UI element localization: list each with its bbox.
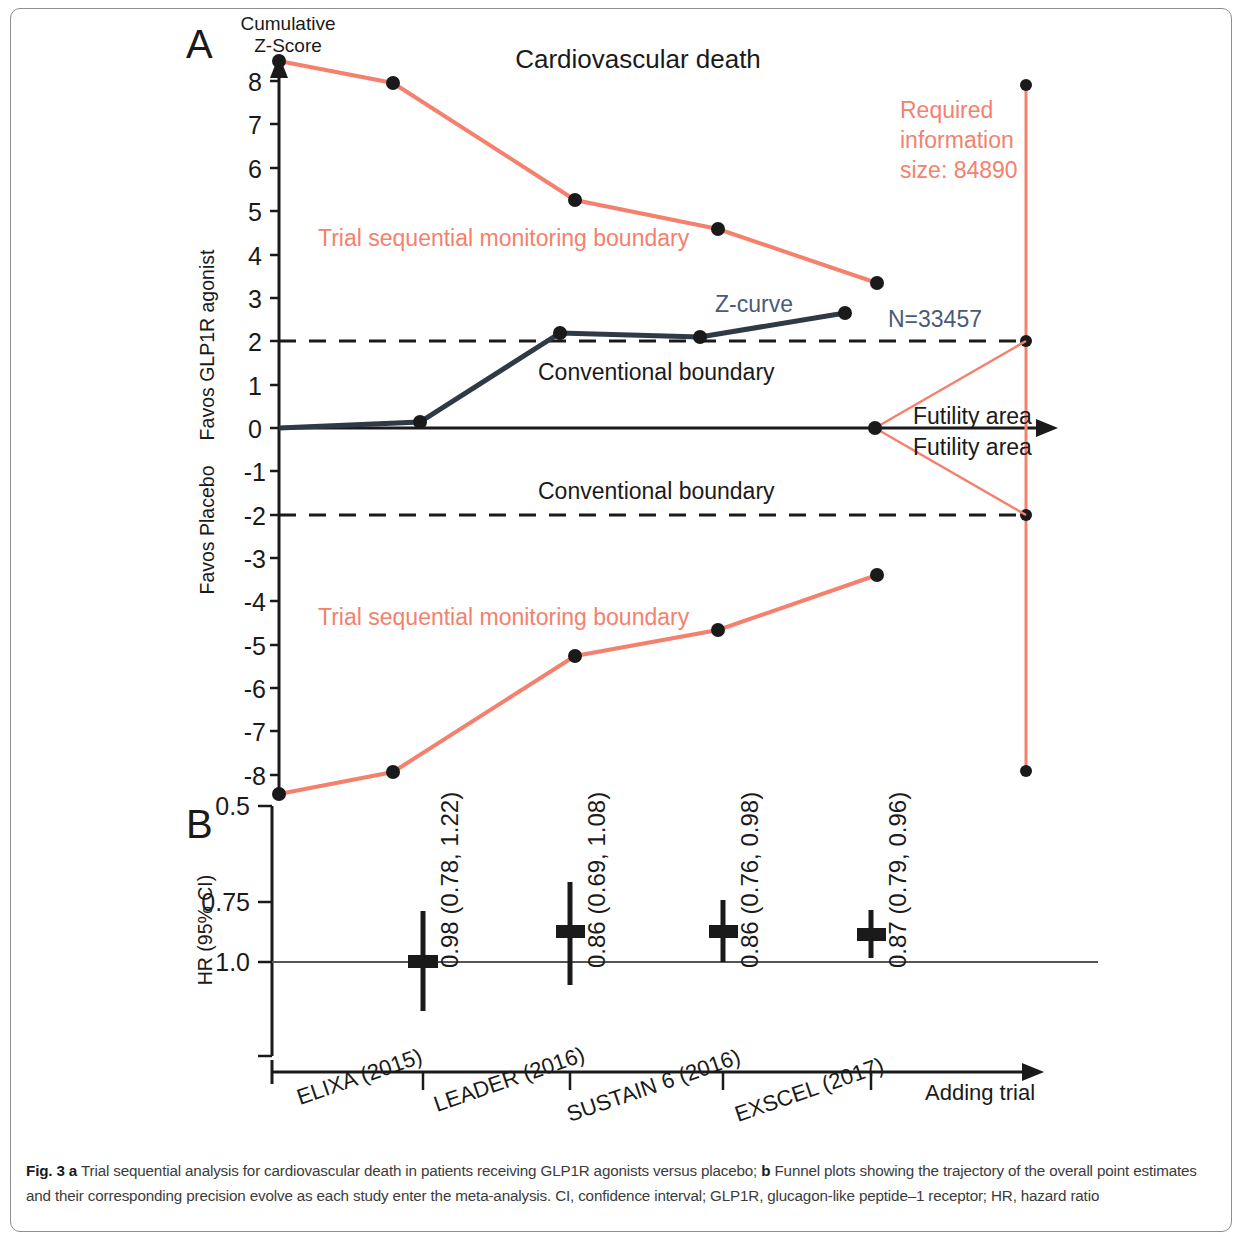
panel-b-xaxis-arrow [1022, 1063, 1044, 1081]
panel-a-yaxis-title-line1: Cumulative [240, 13, 335, 34]
z-curve-point [553, 326, 567, 340]
annotation-n-label: N=33457 [888, 306, 982, 332]
caption-part-b-marker: b [761, 1162, 770, 1179]
ytick-label: 1 [248, 372, 262, 400]
panel-a-upper-side-label: Favos GLP1R agonist [196, 249, 218, 440]
z-curve-point [413, 415, 427, 429]
ytick-label: 5 [248, 198, 262, 226]
ytick-label: 0 [248, 415, 262, 443]
caption-fig-number: Fig. 3 [26, 1162, 65, 1179]
panel-a-yaxis-title-line2: Z-Score [254, 35, 322, 56]
ytick-label: -2 [244, 502, 266, 530]
forest-marker-elixa [408, 911, 438, 1011]
ytick-label: 4 [248, 242, 262, 270]
figure-root: A Cumulative Z-Score Cardiovascular deat… [0, 0, 1244, 1245]
trial-label-exscel: EXSCEL (2017) [731, 1052, 886, 1126]
trial-label-elixa: ELIXA (2015) [293, 1043, 425, 1109]
annotation-conventional-upper: Conventional boundary [538, 359, 775, 385]
annotation-futility-lower: Futility area [913, 434, 1032, 460]
panel-a-lower-side-label: Favos Placebo [196, 465, 218, 594]
panel-a-xaxis-arrow [1036, 419, 1058, 437]
ci-label-sustain6: 0.86 (0.76, 0.98) [736, 792, 763, 968]
annotation-boundary-lower: Trial sequential monitoring boundary [318, 604, 690, 630]
ytick-label: 6 [248, 155, 262, 183]
boundary-lower-point [272, 787, 286, 801]
boundary-upper-point [568, 193, 582, 207]
annotation-ris-line3: size: 84890 [900, 157, 1018, 183]
ci-label-leader: 0.86 (0.69, 1.08) [583, 792, 610, 968]
boundary-lower-point [568, 649, 582, 663]
annotation-futility-upper: Futility area [913, 403, 1032, 429]
ytick-label: 7 [248, 111, 262, 139]
annotation-ris-line2: information [900, 127, 1014, 153]
caption-part-a-text: Trial sequential analysis for cardiovasc… [81, 1162, 757, 1179]
panel-a-title: Cardiovascular death [515, 44, 761, 74]
ytick-label: -3 [244, 545, 266, 573]
panel-b-ytick-label: 1.0 [215, 948, 250, 976]
panel-a: A Cumulative Z-Score Cardiovascular deat… [186, 13, 1058, 801]
ytick-label: 3 [248, 285, 262, 313]
boundary-upper-point [386, 76, 400, 90]
forest-marker-leader [556, 882, 585, 985]
panel-b-ytick-label: 0.75 [201, 888, 250, 916]
ytick-label: -5 [244, 632, 266, 660]
ytick-label: -6 [244, 675, 266, 703]
z-curve-point [838, 306, 852, 320]
ytick-label: -4 [244, 588, 266, 616]
annotation-boundary-upper: Trial sequential monitoring boundary [318, 225, 690, 251]
ci-label-elixa: 0.98 (0.78, 1.22) [436, 792, 463, 968]
panel-a-letter: A [186, 22, 213, 66]
futility-apex-point [868, 421, 882, 435]
ytick-label: -7 [244, 718, 266, 746]
panel-a-ytick-labels: 8 7 6 5 4 3 2 1 0 -1 -2 -3 -4 -5 -6 -7 -… [244, 68, 266, 790]
boundary-upper-point [870, 276, 884, 290]
boundary-lower-point [870, 568, 884, 582]
annotation-conventional-lower: Conventional boundary [538, 478, 775, 504]
ytick-label: -1 [244, 458, 266, 486]
figure-plot-area: A Cumulative Z-Score Cardiovascular deat… [0, 0, 1244, 1160]
ytick-label: 2 [248, 328, 262, 356]
boundary-lower-point [711, 623, 725, 637]
ris-point-top [1020, 79, 1032, 91]
ris-point-bottom [1020, 765, 1032, 777]
panel-b-yticks [258, 806, 272, 1056]
forest-marker-sustain6 [709, 900, 738, 962]
z-curve-point [693, 330, 707, 344]
boundary-lower-point [386, 765, 400, 779]
caption-part-a-marker: a [69, 1162, 77, 1179]
panel-b: B HR (95% CI) 0.5 0.75 1.0 0.98 (0.78, 1… [186, 792, 1098, 1127]
forest-marker-exscel [857, 910, 886, 958]
ytick-label: 8 [248, 68, 262, 96]
boundary-upper-point [272, 54, 286, 68]
annotation-z-curve: Z-curve [715, 291, 793, 317]
panel-b-xaxis-end-label: Adding trial [925, 1080, 1035, 1105]
trial-label-sustain6: SUSTAIN 6 (2016) [563, 1044, 743, 1127]
boundary-upper-point [711, 222, 725, 236]
ci-label-exscel: 0.87 (0.79, 0.96) [884, 792, 911, 968]
figure-caption: Fig. 3 a Trial sequential analysis for c… [26, 1158, 1206, 1208]
ytick-label: -8 [244, 762, 266, 790]
panel-b-ytick-label: 0.5 [215, 792, 250, 820]
panel-b-letter: B [186, 802, 213, 846]
annotation-ris-line1: Required [900, 97, 993, 123]
